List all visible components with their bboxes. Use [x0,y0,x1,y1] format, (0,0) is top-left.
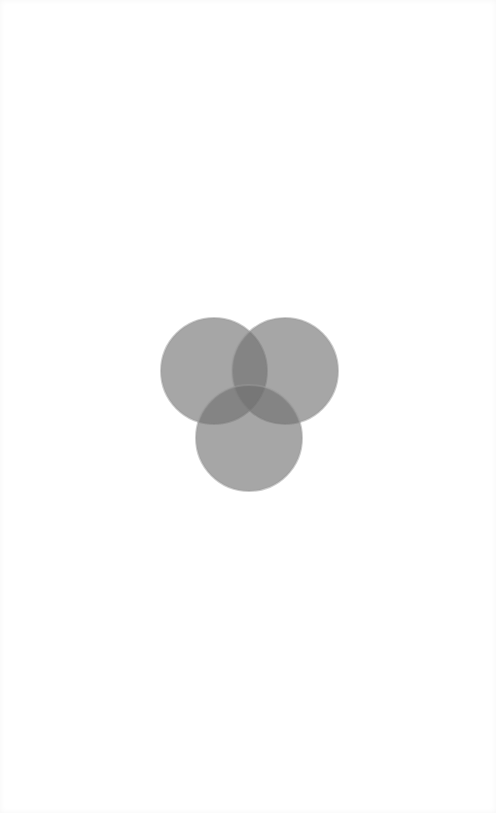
diagram-canvas [0,0,496,813]
venn-circle-bottom [196,385,302,491]
venn-diagram [0,0,496,813]
